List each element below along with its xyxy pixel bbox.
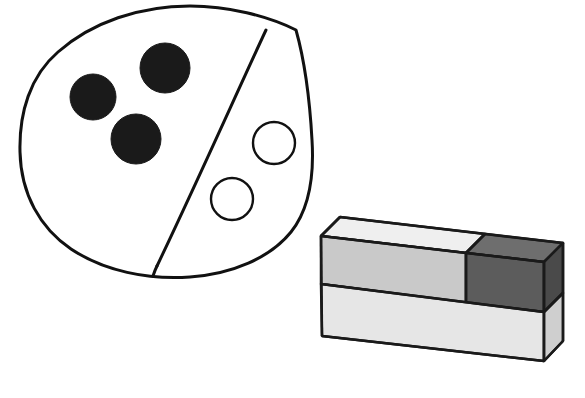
open-circle-1 <box>253 122 295 164</box>
filled-circle-2 <box>140 43 190 93</box>
open-circle-2 <box>211 178 253 220</box>
brick-front-left-edge <box>321 236 322 336</box>
filled-circle-1 <box>70 74 116 120</box>
oval-group <box>20 6 313 278</box>
filled-circle-3 <box>111 114 161 164</box>
figure-canvas: Hand-drawn oval partitioned into two reg… <box>0 0 585 398</box>
brick-block-group <box>321 217 563 361</box>
figure-illustration <box>0 0 585 398</box>
